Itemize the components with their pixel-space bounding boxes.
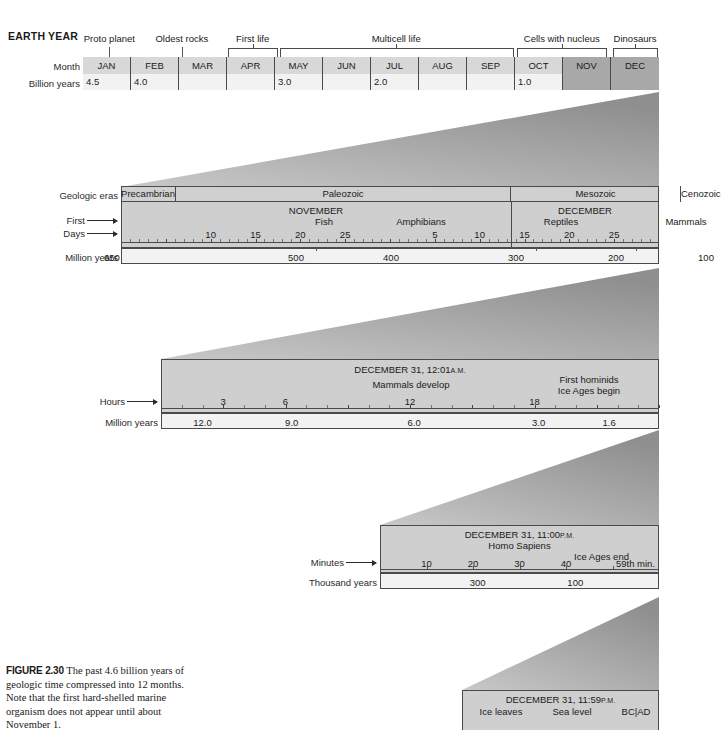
month-cell-aug[interactable]: AUG: [419, 57, 467, 74]
row-label-hours: Hours: [0, 396, 125, 407]
month-cell-may[interactable]: MAY: [275, 57, 323, 74]
month-title-november: NOVEMBER: [121, 205, 511, 216]
day-tick-label-25: 25: [594, 229, 634, 240]
minute-tick-label-20: 20: [453, 558, 493, 569]
row-label-month: Month: [0, 61, 80, 72]
event-mammals: Mammals: [626, 216, 725, 227]
band-title-dec31-1100pm: DECEMBER 31, 11:00P.M.: [380, 529, 659, 540]
row-label-million-years-band3: Million years: [0, 417, 158, 428]
day-tick-label-20: 20: [549, 229, 589, 240]
billion-years-cell-1[interactable]: 4.0: [131, 74, 179, 90]
million-years-value-650: 650: [104, 252, 144, 263]
billion-years-cell-10[interactable]: [563, 74, 611, 90]
annotation-multicell-life-label: Multicell life: [316, 33, 476, 44]
axis-day-tick: [130, 239, 131, 242]
minute-label-59th-min: 59th min.: [597, 558, 658, 569]
million-years-value-400: 400: [371, 252, 411, 263]
billion-years-cell-3[interactable]: [227, 74, 275, 90]
month-cell-oct[interactable]: OCT: [515, 57, 563, 74]
zoom-wedge-4: [462, 597, 659, 690]
thousand-years-value-100: 100: [553, 577, 597, 588]
billion-years-cell-4[interactable]: 3.0: [275, 74, 323, 90]
million-years-tick: [316, 248, 317, 251]
era-cell-precambrian[interactable]: Precambrian: [121, 186, 176, 202]
month-cell-jun[interactable]: JUN: [323, 57, 371, 74]
hour-tick-label-3: 3: [203, 396, 243, 407]
axis-hour-tick: [638, 405, 639, 408]
month-cell-dec[interactable]: DEC: [611, 57, 659, 74]
axis-day-tick: [372, 239, 373, 242]
annotation-dinosaurs-bracket-left: [613, 48, 614, 57]
row-label-days: Days: [0, 228, 85, 239]
axis-day-tick: [650, 239, 651, 242]
billion-years-cell-6[interactable]: 2.0: [371, 74, 419, 90]
band-title-suffix-pm-2: P.M.: [601, 697, 615, 704]
month-title-december: DECEMBER: [511, 205, 659, 216]
annotation-oldest-rocks-tick: [182, 47, 183, 57]
axis-hour-tick: [597, 405, 598, 408]
axis-minutes: [380, 569, 659, 570]
era-cell-mesozoic[interactable]: Mesozoic: [511, 186, 681, 202]
event-mammals-develop: Mammals develop: [341, 379, 481, 390]
axis-hours: [161, 408, 659, 409]
annotation-cells-with-nucleus-bracket-stem: [562, 44, 563, 49]
era-cell-cenozoic[interactable]: Cenozoic: [681, 186, 721, 202]
row-label-first-arrow: [87, 220, 117, 221]
thousand-years-value-300: 300: [456, 577, 500, 588]
month-cell-apr[interactable]: APR: [227, 57, 275, 74]
million-years-band3-value-6-0: 6.0: [392, 417, 436, 428]
annotation-first-life-bracket-left: [228, 48, 229, 57]
event-bc-ad: BC|AD: [612, 706, 660, 717]
axis-hour-tick: [618, 405, 619, 408]
axis-day-tick: [390, 239, 391, 242]
minute-tick-label-40: 40: [546, 558, 586, 569]
minute-tick-label-30: 30: [500, 558, 540, 569]
row-label-million-years: Million years: [0, 252, 118, 263]
billion-years-cell-2[interactable]: [179, 74, 227, 90]
annotation-proto-planet-tick: [109, 47, 110, 57]
era-cell-paleozoic[interactable]: Paleozoic: [176, 186, 511, 202]
month-cell-jan[interactable]: JAN: [83, 57, 131, 74]
day-tick-label-15: 15: [236, 229, 276, 240]
hour-tick-label-6: 6: [266, 396, 306, 407]
annotation-dinosaurs-bracket-right: [657, 48, 658, 57]
row-label-thousand-years: Thousand years: [177, 577, 377, 588]
hour-tick-label-12: 12: [390, 396, 430, 407]
million-years-band3-value-1-6: 1.6: [587, 417, 631, 428]
minute-tick-label-10: 10: [407, 558, 447, 569]
billion-years-cell-11[interactable]: [611, 74, 659, 90]
axis-day-tick: [408, 239, 409, 242]
axis-day-tick: [381, 239, 382, 242]
month-cell-jul[interactable]: JUL: [371, 57, 419, 74]
event-first-hominids: First hominids: [534, 374, 644, 385]
event-amphibians: Amphibians: [361, 216, 481, 227]
million-years-tick: [536, 248, 537, 251]
axis-hour-tick: [576, 405, 577, 408]
day-tick-label-20: 20: [280, 229, 320, 240]
billion-years-cell-5[interactable]: [323, 74, 371, 90]
row-label-minutes-arrow: [346, 562, 376, 563]
table-thousand-years: [380, 573, 659, 589]
axis-hour-tick: [555, 405, 556, 408]
axis-hour-tick: [452, 405, 453, 408]
million-years-value-100: 100: [686, 252, 725, 263]
month-cell-mar[interactable]: MAR: [179, 57, 227, 74]
axis-hour-tick: [306, 405, 307, 408]
figure-caption-label: FIGURE 2.30: [6, 665, 64, 676]
million-years-band3-value-9-0: 9.0: [270, 417, 314, 428]
month-cell-sep[interactable]: SEP: [467, 57, 515, 74]
zoom-wedge-2: [161, 268, 659, 359]
hour-tick-label-18: 18: [515, 396, 555, 407]
annotation-cells-with-nucleus-bracket-left: [517, 48, 518, 57]
billion-years-cell-7[interactable]: [419, 74, 467, 90]
billion-years-cell-9[interactable]: 1.0: [515, 74, 563, 90]
billion-years-cell-8[interactable]: [467, 74, 515, 90]
row-label-billion-years: Billion years: [0, 78, 80, 89]
axis-day-tick: [157, 239, 158, 242]
axis-hour-tick: [244, 405, 245, 408]
month-cell-nov[interactable]: NOV: [563, 57, 611, 74]
month-cell-feb[interactable]: FEB: [131, 57, 179, 74]
annotation-dinosaurs-bracket-stem: [635, 44, 636, 49]
billion-years-cell-0[interactable]: 4.5: [83, 74, 131, 90]
